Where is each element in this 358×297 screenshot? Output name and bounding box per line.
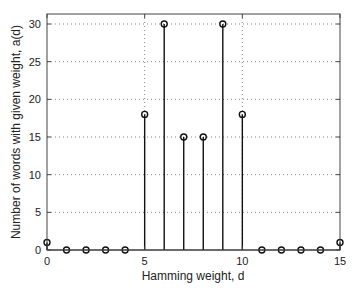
x-tick-label: 0 [44, 255, 50, 267]
y-tick-label: 0 [35, 244, 41, 256]
y-tick-label: 30 [29, 18, 41, 30]
y-tick-label: 25 [29, 56, 41, 68]
x-axis-label: Hamming weight, d [142, 269, 245, 283]
x-tick-label: 15 [334, 255, 346, 267]
y-axis-label: Number of words with given weight, a(d) [9, 25, 23, 239]
y-tick-label: 10 [29, 169, 41, 181]
grid-lines [47, 14, 340, 250]
y-tick-label: 20 [29, 93, 41, 105]
stem-plot: 051015202530051015 Hamming weight, d Num… [0, 0, 358, 297]
plot-frame [47, 14, 340, 250]
data-stems [44, 21, 343, 253]
axis-ticks: 051015202530051015 [29, 14, 346, 267]
x-tick-label: 10 [236, 255, 248, 267]
y-tick-label: 15 [29, 131, 41, 143]
y-tick-label: 5 [35, 206, 41, 218]
x-tick-label: 5 [142, 255, 148, 267]
